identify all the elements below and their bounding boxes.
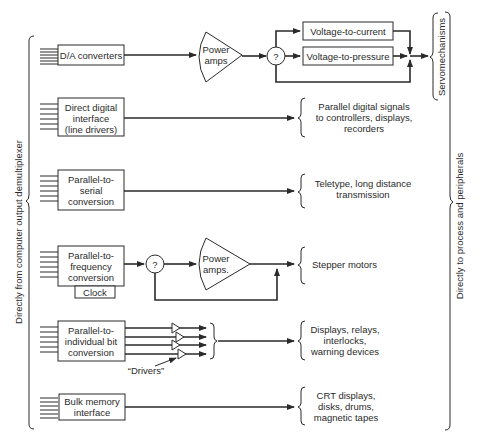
target-label: magnetic tapes xyxy=(314,412,379,423)
source-label: interface xyxy=(73,113,109,124)
power-amp-label: Power xyxy=(203,253,230,264)
driver-icon xyxy=(176,332,184,342)
row-da-converters: D/A converters Power amps ? Voltage-to-c… xyxy=(40,13,447,100)
input-bus-icon xyxy=(40,176,58,201)
drivers-label: “Drivers” xyxy=(128,365,164,376)
source-label: conversion xyxy=(68,347,114,358)
source-label: Parallel-to- xyxy=(68,174,114,185)
source-label: interface xyxy=(74,407,110,418)
source-label: Direct digital xyxy=(65,102,117,113)
power-amp-label: amps xyxy=(204,55,227,66)
left-label: Directly from computer output demultiple… xyxy=(13,140,24,324)
target-label: to controllers, displays, xyxy=(316,112,413,123)
servomechanisms-label: Servomechanisms xyxy=(436,18,447,96)
input-bus-icon xyxy=(40,104,58,129)
source-label: (line drivers) xyxy=(65,124,117,135)
clock-label: Clock xyxy=(83,287,107,298)
source-label: serial xyxy=(80,185,103,196)
source-label: Parallel-to- xyxy=(68,325,114,336)
source-label: individual bit xyxy=(65,336,118,347)
row-parallel-to-serial: Parallel-to- serial conversion Teletype,… xyxy=(40,170,411,210)
input-bus-icon xyxy=(40,252,58,277)
source-label: frequency xyxy=(70,261,112,272)
voltage-to-current-label: Voltage-to-current xyxy=(310,26,386,37)
power-amp-label: Power xyxy=(203,44,230,55)
da-converters-label: D/A converters xyxy=(60,50,123,61)
computer-output-diagram: Directly from computer output demultiple… xyxy=(0,0,480,446)
target-label: warning devices xyxy=(310,346,379,357)
driver-icon xyxy=(178,349,186,359)
target-label: Stepper motors xyxy=(312,259,377,270)
left-brace xyxy=(26,36,34,429)
input-bus-icon xyxy=(40,49,58,64)
target-label: recorders xyxy=(344,123,384,134)
row-parallel-to-frequency: Parallel-to- frequency conversion Clock … xyxy=(40,238,377,300)
target-label: Displays, relays, xyxy=(310,324,379,335)
driver-lines xyxy=(125,323,206,359)
target-label: interlocks, xyxy=(324,335,367,346)
decision-label: ? xyxy=(273,51,278,62)
source-label: conversion xyxy=(68,196,114,207)
right-label: Directly to process and peripherals xyxy=(454,153,465,300)
row-parallel-to-bit: Parallel-to- individual bit conversion “… xyxy=(40,321,380,376)
power-amp-label: amps. xyxy=(203,264,229,275)
target-label: transmission xyxy=(336,189,389,200)
target-label: CRT displays, xyxy=(317,390,376,401)
input-bus-icon xyxy=(40,327,58,352)
source-label: conversion xyxy=(68,272,114,283)
target-label: Teletype, long distance xyxy=(315,178,412,189)
voltage-to-pressure-label: Voltage-to-pressure xyxy=(307,51,390,62)
input-bus-icon xyxy=(40,398,58,418)
target-label: disks, drums, xyxy=(318,401,374,412)
source-label: Parallel-to- xyxy=(68,250,114,261)
row-direct-digital: Direct digital interface (line drivers) … xyxy=(40,98,412,137)
row-bulk-memory: Bulk memory interface CRT displays, disk… xyxy=(40,387,378,425)
source-label: Bulk memory xyxy=(64,396,120,407)
target-label: Parallel digital signals xyxy=(318,101,410,112)
decision-label: ? xyxy=(152,259,157,270)
